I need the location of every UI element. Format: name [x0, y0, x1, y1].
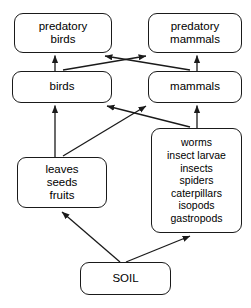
- node-label-line: seeds: [47, 176, 78, 189]
- node-label-line: isopods: [178, 199, 214, 212]
- node-label-line: insects: [180, 162, 213, 175]
- mammals-node[interactable]: mammals: [148, 71, 242, 103]
- arrow-birds-to-predatory-mammals: [63, 56, 146, 70]
- node-label-line: predatory: [171, 20, 220, 33]
- node-label-line: caterpillars: [171, 187, 222, 200]
- predatory-birds-node[interactable]: predatory birds: [14, 13, 112, 53]
- arrow-plants-to-mammals: [63, 106, 146, 156]
- node-label-line: spiders: [180, 174, 214, 187]
- node-label-line: birds: [51, 33, 76, 46]
- node-label-line: gastropods: [171, 212, 223, 225]
- node-label-line: leaves: [45, 163, 78, 176]
- arrow-mammals-to-predatory-birds: [105, 56, 190, 70]
- birds-node[interactable]: birds: [12, 71, 112, 103]
- node-label-line: predatory: [39, 20, 88, 33]
- node-label-line: mammals: [170, 33, 220, 46]
- arrow-soil-to-plants: [62, 212, 120, 262]
- node-label-line: mammals: [170, 80, 220, 93]
- node-label-line: birds: [50, 80, 75, 93]
- node-label-line: worms: [181, 136, 212, 149]
- soil-node[interactable]: SOIL: [80, 262, 171, 295]
- node-label-line: SOIL: [112, 272, 138, 285]
- node-label-line: fruits: [50, 189, 75, 202]
- food-web-diagram: predatory birds predatory mammals birds …: [0, 0, 251, 308]
- invertebrates-node[interactable]: worms insect larvae insects spiders cate…: [151, 128, 242, 233]
- arrow-soil-to-detritivores: [126, 236, 190, 262]
- arrow-detritivores-to-birds: [107, 106, 190, 127]
- plant-matter-node[interactable]: leaves seeds fruits: [17, 157, 107, 208]
- node-label-line: insect larvae: [167, 149, 226, 162]
- predatory-mammals-node[interactable]: predatory mammals: [148, 13, 242, 53]
